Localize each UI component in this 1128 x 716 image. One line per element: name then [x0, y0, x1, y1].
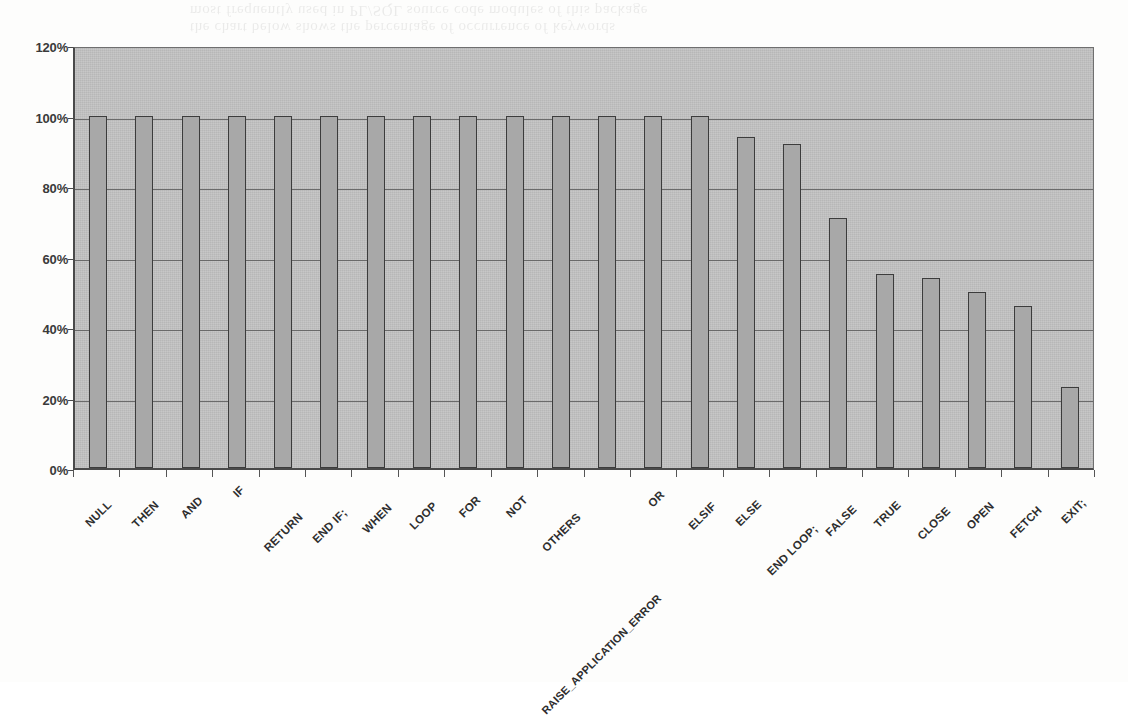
bar-slot: [491, 48, 537, 468]
x-axis-label: LOOP: [407, 500, 439, 532]
bar-slot: [815, 48, 861, 468]
bar-slot: [954, 48, 1000, 468]
bar-slot: [121, 48, 167, 468]
bar[interactable]: [367, 116, 385, 469]
bar-slot: [168, 48, 214, 468]
x-axis-label: END LOOP;: [765, 522, 820, 577]
x-axis-label: OR: [646, 488, 667, 509]
x-axis-label: OPEN: [964, 500, 996, 532]
bar[interactable]: [922, 278, 940, 468]
bar[interactable]: [552, 116, 570, 469]
x-axis-label: ELSE: [733, 498, 763, 528]
x-axis-label: AND: [178, 494, 205, 521]
bar-slot: [676, 48, 722, 468]
bar[interactable]: [135, 116, 153, 469]
x-axis-label: TRUE: [872, 499, 903, 530]
bar[interactable]: [644, 116, 662, 469]
bar-slot: [723, 48, 769, 468]
x-axis-label: NOT: [504, 494, 530, 520]
x-axis-label: WHEN: [360, 501, 394, 535]
bar[interactable]: [1014, 306, 1032, 468]
bar[interactable]: [320, 116, 338, 469]
x-axis-label: THEN: [129, 499, 160, 530]
y-axis-tick-label: 0%: [4, 463, 68, 478]
bar[interactable]: [876, 274, 894, 468]
x-axis-label: RETURN: [261, 511, 304, 554]
x-axis-labels: NULLTHENANDIFRETURNEND IF;WHENLOOPFORNOT…: [73, 474, 1094, 654]
bar[interactable]: [182, 116, 200, 469]
y-axis-tick-label: 20%: [4, 392, 68, 407]
bar[interactable]: [598, 116, 616, 469]
bar-slot: [260, 48, 306, 468]
bar[interactable]: [691, 116, 709, 469]
bar-slot: [1047, 48, 1093, 468]
x-axis-label: IF: [231, 484, 247, 500]
y-axis-tick-label: 120%: [4, 40, 68, 55]
bar-slot: [630, 48, 676, 468]
bar-slot: [584, 48, 630, 468]
bar-slot: [353, 48, 399, 468]
bar-slot: [1000, 48, 1046, 468]
y-axis-tick-label: 80%: [4, 181, 68, 196]
bar-slot: [306, 48, 352, 468]
bar[interactable]: [968, 292, 986, 468]
x-axis-label: EXIT;: [1059, 497, 1088, 526]
y-axis: 0%20%40%60%80%100%120%: [0, 47, 68, 470]
bar[interactable]: [1061, 387, 1079, 468]
x-axis-label: FALSE: [823, 503, 858, 538]
bar-slot: [769, 48, 815, 468]
bar[interactable]: [459, 116, 477, 469]
y-axis-tick-label: 40%: [4, 322, 68, 337]
bar[interactable]: [89, 116, 107, 469]
x-axis-label: FETCH: [1008, 504, 1044, 540]
x-axis-tick-mark: [1094, 470, 1095, 477]
x-axis-label: END IF;: [310, 506, 349, 545]
plot-area: [73, 47, 1094, 470]
bar-slot: [75, 48, 121, 468]
bar-slot: [399, 48, 445, 468]
bar-slot: [538, 48, 584, 468]
y-axis-tick-label: 60%: [4, 251, 68, 266]
bar[interactable]: [783, 144, 801, 468]
bar-slot: [908, 48, 954, 468]
bar-slot: [214, 48, 260, 468]
x-axis-label: CLOSE: [915, 505, 952, 542]
bar[interactable]: [274, 116, 292, 469]
x-axis-label: OTHERS: [540, 511, 583, 554]
bar[interactable]: [228, 116, 246, 469]
bar[interactable]: [737, 137, 755, 468]
bar-series: [75, 48, 1093, 468]
y-axis-tick-label: 100%: [4, 110, 68, 125]
bar[interactable]: [506, 116, 524, 469]
x-axis-label: RAISE_APPLICATION_ERROR: [539, 592, 663, 716]
x-axis-label: ELSIF: [686, 500, 718, 532]
x-axis-label: NULL: [83, 498, 114, 529]
bar-slot: [445, 48, 491, 468]
bar[interactable]: [829, 218, 847, 468]
x-axis-label: FOR: [457, 494, 483, 520]
bar[interactable]: [413, 116, 431, 469]
bar-slot: [862, 48, 908, 468]
